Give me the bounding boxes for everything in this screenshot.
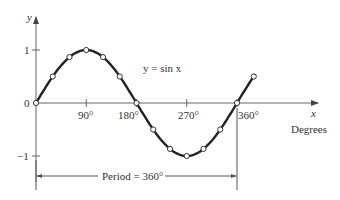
x-tick-180: 180° [118, 110, 139, 121]
data-point-marker [251, 74, 256, 79]
x-tick-360: 360° [238, 110, 259, 121]
y-axis-label: y [27, 12, 32, 23]
data-point-marker [218, 127, 223, 132]
data-point-marker [117, 74, 122, 79]
sine-plot [0, 0, 340, 200]
y-tick-0: 0 [24, 98, 30, 109]
data-point-marker [201, 146, 206, 151]
x-axis-label: x [311, 108, 316, 119]
data-point-marker [167, 146, 172, 151]
data-point-marker [234, 100, 239, 105]
curve-label: y = sin x [143, 63, 181, 74]
data-point-marker [84, 47, 89, 52]
data-point-marker [134, 100, 139, 105]
x-tick-270: 270° [178, 110, 199, 121]
data-point-marker [151, 127, 156, 132]
data-point-marker [50, 74, 55, 79]
x-unit-label: Degrees [291, 124, 327, 135]
period-annotation: Period = 360° [100, 171, 165, 182]
y-tick-1: 1 [24, 45, 30, 56]
data-point-marker [33, 100, 38, 105]
y-tick-neg1: −1 [17, 151, 29, 162]
data-point-marker [67, 55, 72, 60]
x-tick-90: 90° [78, 110, 93, 121]
data-point-marker [184, 153, 189, 158]
data-point-marker [100, 55, 105, 60]
